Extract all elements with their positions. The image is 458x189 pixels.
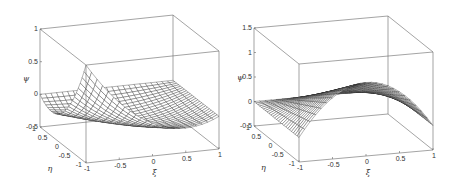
x-tick-label: -0.5 (114, 162, 126, 169)
z-tick-label: 1.5 (242, 24, 252, 31)
x-tick-label: 1 (218, 151, 222, 158)
wireframe-surface (40, 65, 219, 128)
z-tick-label: 1 (248, 49, 252, 56)
z-tick-label: 0.5 (242, 73, 252, 80)
y-tick-label: 0.5 (38, 134, 48, 141)
z-tick-label: 0.5 (28, 58, 38, 65)
y-tick-label: -1 (76, 161, 82, 168)
x-tick-label: -1 (297, 164, 303, 171)
y-tick-label: 0 (269, 142, 273, 149)
x-tick-label: 1 (432, 152, 436, 159)
y-tick-label: -0.5 (272, 151, 284, 158)
y-tick-label: -1 (289, 160, 295, 167)
x-axis-label: ξ (152, 168, 157, 177)
x-tick-label: 0.5 (396, 155, 406, 162)
z-axis-label: ψ (23, 74, 30, 83)
wireframe-surface (254, 82, 433, 137)
x-tick-label: -0.5 (327, 161, 339, 168)
y-tick-label: 0.5 (252, 133, 262, 140)
y-tick-label: 1 (246, 124, 250, 131)
y-tick-label: 1 (32, 125, 36, 132)
y-tick-label: 0 (55, 143, 59, 150)
y-tick-label: -0.5 (58, 152, 70, 159)
y-axis-label: η (48, 164, 53, 173)
z-tick-label: 1 (34, 25, 38, 32)
x-tick-label: -1 (84, 165, 90, 172)
surface-plot-left: -0.500.51-1-0.500.51-1-0.500.51ψξη (23, 15, 222, 177)
x-tick-label: 0 (365, 158, 369, 165)
figure: -0.500.51-1-0.500.51-1-0.500.51ψξη -0.50… (0, 0, 458, 189)
z-tick-label: 0 (34, 90, 38, 97)
z-tick-label: 0 (248, 98, 252, 105)
z-axis-label: ψ (237, 73, 244, 82)
x-axis-label: ξ (366, 168, 371, 177)
surface-plot-right: -0.500.511.5-1-0.500.51-1-0.500.51ψξη (237, 16, 436, 177)
y-axis-label: η (261, 163, 266, 172)
x-tick-label: 0.5 (182, 155, 192, 162)
x-tick-label: 0 (152, 158, 156, 165)
